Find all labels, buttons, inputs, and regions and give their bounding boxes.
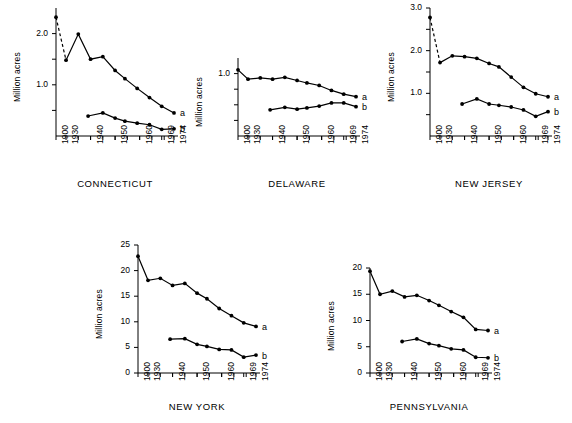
data-point-marker [146,278,150,282]
series-label-b: b [262,351,267,361]
data-point-marker [460,102,464,106]
data-point-marker [246,77,250,81]
data-point-marker [295,79,299,83]
data-point-marker [534,114,538,118]
data-point-marker [148,96,152,100]
data-point-marker [400,340,404,344]
y-axis-label: Million acres [326,301,336,351]
data-point-marker [195,342,199,346]
x-tick-label: 1950 [493,125,503,144]
y-tick-label: 15 [104,290,130,300]
plot-area: ab [132,245,284,379]
data-point-marker [305,81,309,85]
y-tick-label: 5 [104,341,130,351]
data-point-marker [135,86,139,90]
y-tick-label: 5 [336,341,362,351]
x-tick-label: 1940 [177,362,187,381]
y-axis-label: Million acres [386,52,396,102]
data-point-marker [236,68,240,72]
data-point-marker [438,61,442,65]
data-point-marker [136,254,140,258]
x-tick-label: 1900 [374,362,384,381]
data-point-marker [283,75,287,79]
series-a-line [66,34,174,113]
x-tick-label: 1950 [301,125,311,144]
x-tick-label: 1974 [360,125,370,144]
y-tick-label: 15 [336,288,362,298]
series-label-a: a [362,92,367,102]
data-point-marker [268,108,272,112]
data-point-marker [123,119,127,123]
x-tick-label: 1960 [226,362,236,381]
y-tick-label: 1.0 [204,68,230,78]
data-point-marker [168,337,172,341]
data-point-marker [205,344,209,348]
data-point-marker [172,111,176,115]
data-point-marker [415,293,419,297]
plot-area: ab [424,8,572,142]
data-point-marker [354,105,358,109]
y-tick-label: 3.0 [396,2,422,12]
x-tick-label: 1900 [60,125,70,144]
x-tick-label: 1940 [469,125,479,144]
x-tick-label: 1930 [444,125,454,144]
series-a-dashed-segment [430,17,440,62]
x-tick-label: 1960 [518,125,528,144]
y-tick-label: 10 [336,315,362,325]
data-point-marker [522,85,526,89]
x-tick-label: 1969 [480,362,490,381]
y-tick-label: 20 [336,262,362,272]
data-point-marker [135,121,139,125]
data-point-marker [449,347,453,351]
series-label-b: b [362,102,367,112]
panel-title-connecticut: CONNECTICUT [40,178,190,189]
x-tick-label: 1940 [95,125,105,144]
data-point-marker [101,111,105,115]
data-point-marker [546,110,550,114]
y-tick-label: 1.0 [396,87,422,97]
x-tick-label: 1974 [552,125,562,144]
x-tick-label: 1960 [326,125,336,144]
data-point-marker [89,57,93,61]
x-tick-label: 1974 [178,125,188,144]
data-point-marker [305,106,309,110]
series-a-line [238,70,356,97]
data-point-marker [354,95,358,99]
data-point-marker [317,104,321,108]
data-point-marker [497,103,501,107]
x-tick-label: 1950 [119,125,129,144]
data-point-marker [474,355,478,359]
x-tick-label: 1974 [260,362,270,381]
data-point-marker [254,353,258,357]
x-tick-label: 1930 [384,362,394,381]
y-axis-label: Million acres [194,77,204,127]
data-point-marker [330,89,334,93]
series-label-a: a [262,322,267,332]
data-point-marker [205,297,209,301]
data-point-marker [462,315,466,319]
data-point-marker [54,15,58,19]
data-point-marker [330,101,334,105]
data-point-marker [450,54,454,58]
y-tick-label: 2.0 [22,28,48,38]
data-point-marker [487,102,491,106]
data-point-marker [242,355,246,359]
data-point-marker [449,310,453,314]
panel-title-new-jersey: NEW JERSEY [414,178,564,189]
series-a-line [440,56,548,97]
y-tick-label: 2.0 [396,45,422,55]
x-tick-label: 1930 [70,125,80,144]
series-label-a: a [494,326,499,336]
data-point-marker [487,62,491,66]
data-point-marker [76,32,80,36]
series-a-dashed-segment [56,17,66,60]
plot-area: ab [50,8,202,142]
x-tick-label: 1950 [433,362,443,381]
x-tick-label: 1969 [348,125,358,144]
data-point-marker [113,116,117,120]
series-b-line [462,99,548,116]
data-point-marker [474,328,478,332]
data-point-marker [171,284,175,288]
data-point-marker [509,105,513,109]
data-point-marker [428,15,432,19]
